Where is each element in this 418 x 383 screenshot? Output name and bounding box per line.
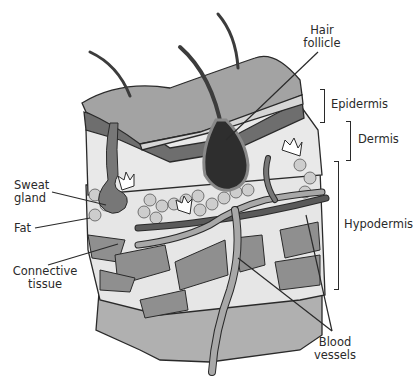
- label-sweat-gland: Sweat gland: [14, 179, 49, 205]
- label-fat: Fat: [14, 222, 31, 235]
- label-tissue-line2: tissue: [10, 278, 80, 291]
- label-epidermis: Epidermis: [331, 98, 388, 111]
- label-vessels-line2: vessels: [310, 349, 360, 362]
- dermis-bracket: [346, 121, 351, 161]
- label-hair-follicle: Hair follicle: [302, 24, 342, 50]
- hypodermis-bracket: [334, 161, 339, 290]
- label-hypodermis: Hypodermis: [344, 218, 413, 231]
- label-connective-tissue: Connective tissue: [10, 265, 80, 291]
- leader-fat: [35, 218, 90, 228]
- label-gland-line2: gland: [14, 192, 49, 205]
- hair-right: [218, 14, 238, 68]
- skin-cross-section-diagram: [0, 0, 418, 383]
- label-blood-vessels: Blood vessels: [310, 336, 360, 362]
- label-dermis: Dermis: [358, 133, 399, 146]
- epidermis-bracket: [320, 89, 325, 123]
- label-follicle-line2: follicle: [302, 37, 342, 50]
